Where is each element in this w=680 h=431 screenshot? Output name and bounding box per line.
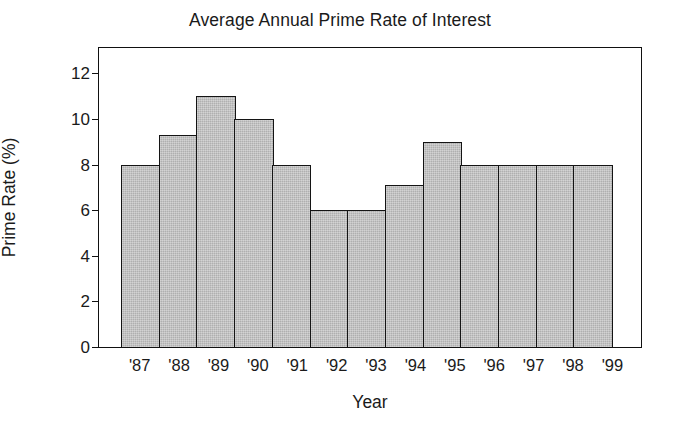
x-tick-label: '94 — [396, 356, 435, 375]
y-tick-mark — [92, 73, 99, 74]
chart-title: Average Annual Prime Rate of Interest — [0, 10, 680, 31]
x-tick-label: '89 — [199, 356, 238, 375]
x-tick-label: '93 — [356, 356, 395, 375]
bar — [234, 119, 273, 347]
bar — [196, 96, 235, 347]
x-tick-label: '91 — [278, 356, 317, 375]
x-tick-label: '92 — [317, 356, 356, 375]
plot-area: 024681012 — [99, 48, 641, 347]
y-tick-label: 12 — [71, 65, 90, 82]
x-axis-label: Year — [98, 392, 642, 413]
x-tick-label: '97 — [514, 356, 553, 375]
bar — [423, 142, 462, 347]
plot-frame: 024681012 — [98, 47, 642, 348]
x-tick-label: '95 — [435, 356, 474, 375]
bar — [536, 165, 575, 347]
x-tick-label: '96 — [475, 356, 514, 375]
bar — [347, 210, 386, 347]
x-tick-label: '99 — [593, 356, 632, 375]
bar — [121, 165, 160, 347]
y-tick-label: 10 — [71, 110, 90, 127]
x-tick-label: '98 — [553, 356, 592, 375]
y-tick-mark — [92, 301, 99, 302]
x-tick-label: '90 — [238, 356, 277, 375]
bar — [385, 185, 424, 347]
x-axis-tick-labels: '87'88'89'90'91'92'93'94'95'96'97'98'99 — [120, 356, 632, 375]
bar — [573, 165, 612, 347]
chart-figure: Average Annual Prime Rate of Interest Pr… — [0, 0, 680, 431]
y-tick-mark — [92, 210, 99, 211]
y-tick-mark — [92, 256, 99, 257]
y-tick-label: 6 — [81, 202, 90, 219]
y-tick-label: 4 — [81, 247, 90, 264]
bar — [498, 165, 537, 347]
bar-series — [121, 46, 611, 347]
y-tick-mark — [92, 347, 99, 348]
y-tick-mark — [92, 119, 99, 120]
bar — [310, 210, 349, 347]
y-tick-label: 8 — [81, 156, 90, 173]
y-axis-label: Prime Rate (%) — [0, 47, 20, 348]
y-tick-label: 2 — [81, 293, 90, 310]
bar — [272, 165, 311, 347]
bar — [460, 165, 499, 347]
x-tick-label: '87 — [120, 356, 159, 375]
y-tick-label: 0 — [81, 339, 90, 356]
y-tick-mark — [92, 165, 99, 166]
bar — [159, 135, 198, 347]
x-tick-label: '88 — [159, 356, 198, 375]
